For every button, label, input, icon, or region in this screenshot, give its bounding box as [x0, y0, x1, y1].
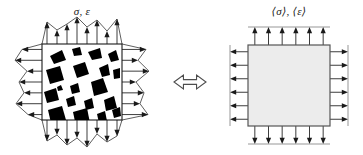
averaged-field-label: ⟨σ⟩, ⟨ε⟩ — [272, 5, 307, 17]
homogeneous-boundary — [248, 45, 330, 126]
rve-field-label: σ, ε — [74, 5, 91, 17]
figure-root: σ, ε ⟨σ⟩, ⟨ε⟩ — [0, 0, 363, 155]
homogenization-figure: σ, ε ⟨σ⟩, ⟨ε⟩ — [0, 0, 363, 155]
